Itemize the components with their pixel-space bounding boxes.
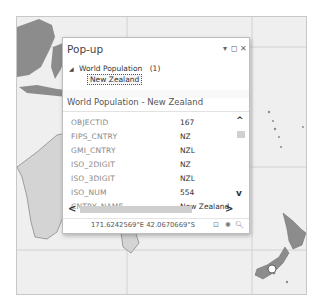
expand-triangle-icon[interactable]: ◢ xyxy=(69,65,74,72)
layer-feature-count: (1) xyxy=(150,64,161,73)
scroll-up-icon[interactable]: ^ xyxy=(236,115,244,125)
horizontal-scroll-thumb[interactable] xyxy=(80,206,192,213)
attribute-key: ISO_3DIGIT xyxy=(71,174,115,183)
scroll-down-icon[interactable]: v xyxy=(236,188,242,198)
menu-dropdown-icon[interactable]: ▾ xyxy=(223,44,227,53)
popup-window: Pop-up ▾ ◻ ✕ ◢ World Population (1) New … xyxy=(62,37,250,234)
attribute-value: NZL xyxy=(180,174,195,183)
vertical-scrollbar[interactable]: ^ v xyxy=(235,114,247,203)
attribute-row: GMI_CNTRY NZL xyxy=(63,146,235,159)
attribute-row: ISO_3DIGIT NZL xyxy=(63,174,235,187)
attribute-value: 167 xyxy=(180,118,194,127)
vertical-scroll-thumb[interactable] xyxy=(237,131,245,138)
attribute-value: NZL xyxy=(180,146,195,155)
layer-name: World Population xyxy=(79,64,142,73)
map-cursor xyxy=(268,265,276,273)
attribute-key: ISO_2DIGIT xyxy=(71,160,115,169)
attribute-key: GMI_CNTRY xyxy=(71,146,116,155)
attribute-key: FIPS_CNTRY xyxy=(71,132,117,141)
popup-footer: 171.6242569°E 42.0670669°S ⊡ ✺ 🔍︎ xyxy=(63,218,249,233)
pan-to-icon[interactable]: 🔍︎ xyxy=(235,221,244,229)
attribute-value: 554 xyxy=(180,188,194,197)
attribute-row: ISO_2DIGIT NZ xyxy=(63,160,235,173)
attribute-table: OBJECTID 167 FIPS_CNTRY NZ GMI_CNTRY NZL… xyxy=(63,114,235,218)
scroll-left-icon[interactable]: < xyxy=(68,203,76,214)
horizontal-scrollbar[interactable]: < > xyxy=(67,204,237,215)
coordinates-readout: 171.6242569°E 42.0670669°S xyxy=(91,221,195,229)
attribute-key: ISO_NUM xyxy=(71,188,107,197)
attribute-row: OBJECTID 167 xyxy=(63,118,235,131)
attribute-row: ISO_NUM 554 xyxy=(63,188,235,201)
divider xyxy=(63,111,249,112)
close-icon[interactable]: ✕ xyxy=(240,44,247,53)
tree-feature-new-zealand[interactable]: New Zealand xyxy=(87,74,142,85)
flash-icon[interactable]: ✺ xyxy=(225,221,231,229)
popup-title: Pop-up xyxy=(67,43,103,55)
attribute-key: OBJECTID xyxy=(71,118,108,127)
zoom-to-icon[interactable]: ⊡ xyxy=(213,221,219,229)
tree-layer-node[interactable]: ◢ World Population (1) xyxy=(69,64,160,73)
feature-section-title: World Population - New Zealand xyxy=(67,97,203,107)
attribute-row: FIPS_CNTRY NZ xyxy=(63,132,235,145)
scroll-right-icon[interactable]: > xyxy=(225,203,233,214)
restore-icon[interactable]: ◻ xyxy=(231,44,238,53)
attribute-value: NZ xyxy=(180,132,191,141)
attribute-value: NZ xyxy=(180,160,191,169)
